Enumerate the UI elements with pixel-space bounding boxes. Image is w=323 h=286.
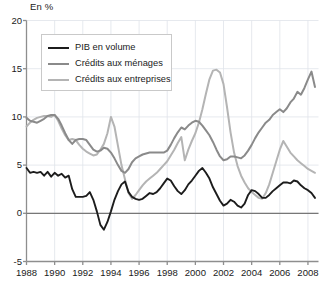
legend-label: Crédits aux ménages bbox=[75, 59, 163, 68]
legend-label: PIB en volume bbox=[75, 43, 135, 52]
legend-item: PIB en volume bbox=[48, 42, 135, 54]
y-axis-tick-label: 0 bbox=[0, 208, 22, 218]
y-axis-tick-label: 5 bbox=[0, 160, 22, 170]
y-axis-tick-label: 10 bbox=[0, 112, 22, 122]
legend-line-swatch bbox=[48, 63, 69, 65]
legend-line-swatch bbox=[48, 79, 69, 81]
legend-line-swatch bbox=[48, 47, 69, 49]
legend-label: Crédits aux entreprises bbox=[75, 75, 171, 84]
series-lines bbox=[27, 70, 315, 230]
chart-container: En % 20151050-5 198819901992199419961998… bbox=[0, 0, 323, 286]
y-axis-tick-label: 20 bbox=[0, 16, 22, 26]
x-axis-tick-label: 2008 bbox=[291, 268, 323, 278]
y-axis-tick-label: 15 bbox=[0, 64, 22, 74]
legend-item: Crédits aux entreprises bbox=[48, 74, 171, 86]
y-axis-tick-label: -5 bbox=[0, 257, 22, 267]
chart-legend: PIB en volumeCrédits aux ménagesCrédits … bbox=[41, 34, 172, 91]
legend-item: Crédits aux ménages bbox=[48, 58, 163, 70]
